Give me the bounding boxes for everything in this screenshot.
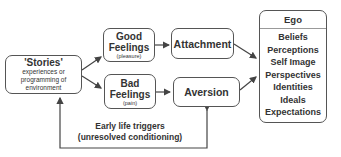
stories-box: 'Stories' experiences or programming of …	[5, 55, 82, 94]
good-feelings-box: Good Feelings (pleasure)	[103, 28, 155, 62]
stories-line: environment	[26, 84, 62, 92]
stories-title: 'Stories'	[24, 57, 63, 68]
bad-title-2: Feelings	[110, 89, 151, 100]
stories-line: programming of	[21, 76, 67, 84]
ego-item: Beliefs	[265, 31, 321, 44]
good-sub: (pleasure)	[117, 53, 142, 59]
feedback-label: Early life triggers (unresolved conditio…	[60, 121, 200, 143]
stories-line: experiences or	[22, 68, 65, 76]
bad-title: Bad	[121, 78, 140, 89]
feedback-line-2: (unresolved conditioning)	[60, 132, 200, 143]
ego-item: Ideals	[265, 94, 321, 107]
ego-box: Ego Beliefs Perceptions Self Image Persp…	[259, 10, 327, 123]
bad-sub: (pain)	[123, 100, 137, 106]
ego-item: Expectations	[265, 106, 321, 119]
attachment-box: Attachment	[171, 28, 234, 59]
ego-title: Ego	[260, 11, 326, 29]
ego-item: Perceptions	[265, 44, 321, 57]
bad-feelings-box: Bad Feelings (pain)	[104, 74, 156, 109]
feedback-line-1: Early life triggers	[60, 121, 200, 132]
aversion-box: Aversion	[173, 77, 240, 107]
ego-item: Identities	[265, 81, 321, 94]
ego-item: Self Image	[265, 56, 321, 69]
good-title-2: Feelings	[109, 42, 150, 53]
good-title: Good	[116, 31, 142, 42]
ego-item: Perspectives	[265, 69, 321, 82]
